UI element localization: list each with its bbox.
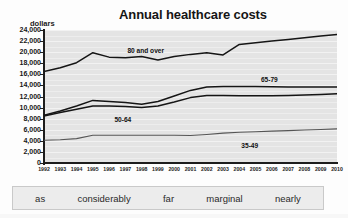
y-tick-mark — [40, 74, 43, 75]
word-bank-item[interactable]: as — [35, 193, 45, 204]
y-tick-label: 24,000 — [2, 26, 41, 33]
scan-edge — [0, 214, 348, 218]
x-tick-label: 2008 — [299, 166, 311, 172]
series-label: 65-79 — [261, 76, 278, 83]
y-tick-mark — [40, 119, 43, 120]
y-tick-mark — [40, 108, 43, 109]
x-tick-label: 2007 — [282, 166, 294, 172]
y-tick-label: 8,000 — [2, 115, 41, 122]
x-tick-label: 1998 — [136, 166, 148, 172]
y-tick-mark — [40, 30, 43, 31]
word-bank: asconsiderablyfarmarginalnearly — [12, 186, 324, 210]
x-tick-label: 1993 — [55, 166, 67, 172]
y-tick-label: 4,000 — [2, 137, 41, 144]
x-tick-label: 2004 — [234, 166, 246, 172]
y-tick-mark — [40, 63, 43, 64]
y-tick-label: 10,000 — [2, 104, 41, 111]
series-label: 35-49 — [241, 142, 258, 149]
y-tick-mark — [40, 85, 43, 86]
series-line — [44, 34, 337, 71]
x-tick-label: 2010 — [331, 166, 343, 172]
x-tick-label: 2003 — [217, 166, 229, 172]
series-line — [44, 94, 337, 116]
x-tick-label: 2001 — [185, 166, 197, 172]
x-tick-label: 1999 — [152, 166, 164, 172]
series-label: 50-64 — [114, 116, 131, 123]
word-bank-item[interactable]: marginal — [206, 193, 242, 204]
y-tick-mark — [40, 52, 43, 53]
y-tick-label: 12,000 — [2, 93, 41, 100]
x-tick-label: 1994 — [71, 166, 83, 172]
y-tick-mark — [40, 130, 43, 131]
y-tick-mark — [40, 152, 43, 153]
x-tick-label: 2002 — [201, 166, 213, 172]
word-bank-item[interactable]: nearly — [275, 193, 301, 204]
x-tick-label: 2009 — [315, 166, 327, 172]
word-bank-item[interactable]: considerably — [77, 193, 130, 204]
y-tick-label: 22,000 — [2, 37, 41, 44]
series-label: 80 and over — [127, 47, 164, 54]
data-lines — [44, 30, 337, 163]
page-title: Annual healthcare costs — [98, 7, 288, 22]
y-tick-mark — [40, 41, 43, 42]
x-tick-label: 1992 — [38, 166, 50, 172]
x-tick-label: 1997 — [120, 166, 132, 172]
y-tick-label: 14,000 — [2, 81, 41, 88]
x-tick-label: 1996 — [103, 166, 115, 172]
word-bank-item[interactable]: far — [163, 193, 174, 204]
x-tick-label: 2000 — [168, 166, 180, 172]
y-tick-mark — [40, 97, 43, 98]
y-tick-label: 0 — [2, 159, 41, 166]
y-tick-label: 20,000 — [2, 48, 41, 55]
x-tick-label: 2006 — [266, 166, 278, 172]
series-line — [44, 87, 337, 116]
x-axis-tick-labels: 1992199319941995199619971998199920002001… — [44, 166, 337, 178]
series-line — [44, 129, 337, 140]
page-root: Annual healthcare costs dollars 02,0004,… — [0, 0, 348, 218]
y-axis-tick-labels: 02,0004,0006,0008,00010,00012,00014,0001… — [0, 0, 41, 180]
y-tick-label: 16,000 — [2, 70, 41, 77]
y-tick-label: 18,000 — [2, 59, 41, 66]
y-tick-mark — [40, 141, 43, 142]
x-tick-label: 1995 — [87, 166, 99, 172]
chart-figure: Annual healthcare costs dollars 02,0004,… — [0, 0, 348, 180]
y-tick-label: 6,000 — [2, 126, 41, 133]
y-tick-label: 2,000 — [2, 148, 41, 155]
x-tick-label: 2005 — [250, 166, 262, 172]
y-tick-mark — [40, 163, 43, 164]
